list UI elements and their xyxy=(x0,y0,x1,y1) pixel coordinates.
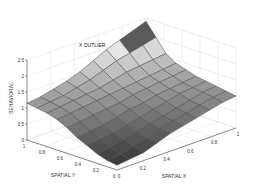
z-axis-label: BEHAVIORAL xyxy=(8,82,14,114)
y-axis-label: SPATIAL Y xyxy=(51,172,76,178)
x-tick-label: 0.2 xyxy=(140,166,147,171)
surface-mesh xyxy=(27,21,236,165)
x-tick-label: 1 xyxy=(237,132,240,137)
z-tick-label: 2.5 xyxy=(18,58,25,63)
y-tick-label: 0.2 xyxy=(93,168,100,173)
x-tick-label: 0.8 xyxy=(211,140,218,145)
y-tick-label: 0.6 xyxy=(57,156,64,161)
y-tick-label: 0.8 xyxy=(39,150,46,155)
y-tick-label: 0 xyxy=(113,174,116,179)
outlier-annotation: X OUTLIER xyxy=(79,42,106,48)
y-tick-label: 0.4 xyxy=(75,162,82,167)
x-axis-label: SPATIAL X xyxy=(162,173,187,179)
x-tick-label: 0.4 xyxy=(163,157,170,162)
z-tick-label: 2 xyxy=(21,74,24,79)
y-tick-label: 1 xyxy=(23,144,26,149)
x-tick-label: 0.6 xyxy=(187,149,194,154)
z-tick-label: 0 xyxy=(21,138,24,143)
x-tick-label: 0 xyxy=(118,174,121,179)
z-tick-label: 0.5 xyxy=(18,122,25,127)
surface-plot: 00.20.40.60.8100.20.40.60.8100.511.522.5… xyxy=(0,0,256,190)
z-tick-label: 1.5 xyxy=(18,90,25,95)
z-tick-label: 1 xyxy=(21,106,24,111)
